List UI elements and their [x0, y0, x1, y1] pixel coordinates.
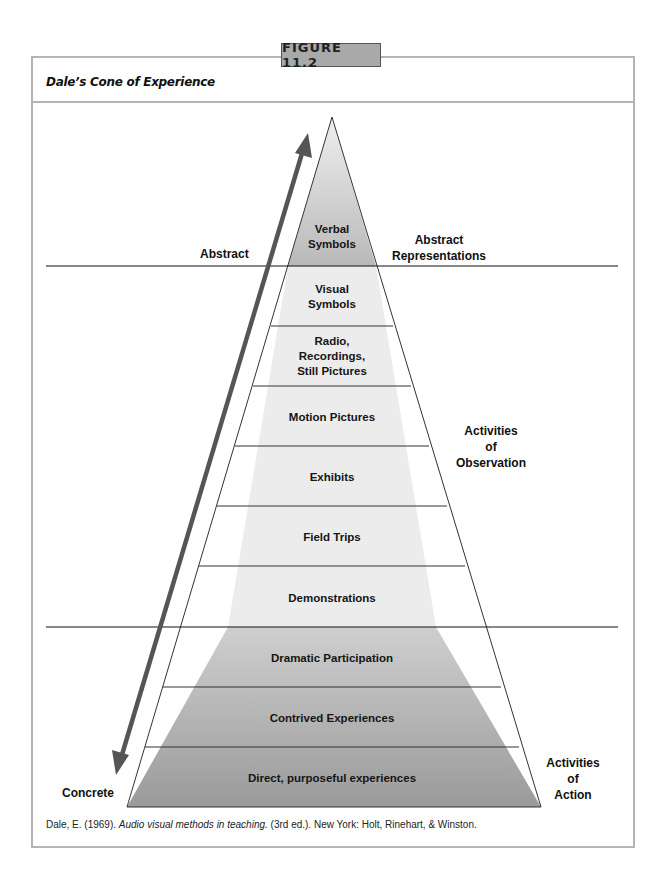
label-abstract-representations: Abstract Representations: [384, 232, 494, 264]
layer-label-radio-recordings: Radio,Recordings,Still Pictures: [297, 334, 367, 379]
layer-label-dramatic-participation: Dramatic Participation: [271, 651, 393, 666]
label-activities-of-action: Activities of Action: [538, 755, 608, 803]
layer-label-verbal-symbols: VerbalSymbols: [308, 222, 356, 252]
arrowhead-down-icon: [112, 750, 129, 775]
label-abstract: Abstract: [200, 246, 249, 262]
label-concrete: Concrete: [62, 785, 114, 801]
layer-label-direct-experiences: Direct, purposeful experiences: [248, 771, 416, 786]
layer-label-exhibits: Exhibits: [310, 470, 355, 485]
citation: Dale, E. (1969). Audio visual methods in…: [46, 819, 477, 830]
layer-label-visual-symbols: VisualSymbols: [308, 282, 356, 312]
layer-label-demonstrations: Demonstrations: [288, 591, 376, 606]
arrowhead-up-icon: [295, 133, 312, 158]
layer-label-motion-pictures: Motion Pictures: [289, 410, 375, 425]
layer-label-contrived-experiences: Contrived Experiences: [270, 711, 395, 726]
label-activities-of-observation: Activities of Observation: [446, 423, 536, 471]
cone-diagram: [0, 0, 664, 886]
layer-label-field-trips: Field Trips: [303, 530, 361, 545]
